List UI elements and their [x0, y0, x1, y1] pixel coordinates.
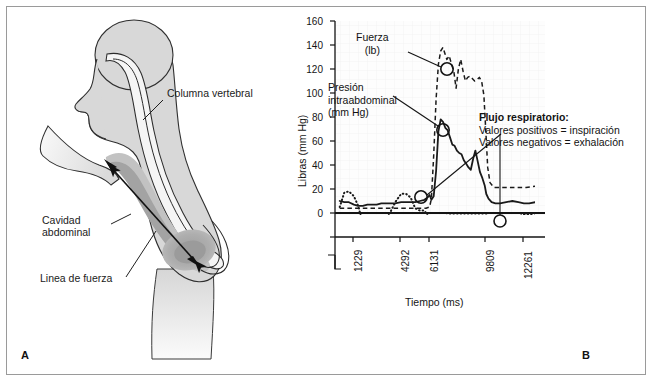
y-axis-title: Libras (mm Hg) — [296, 115, 308, 187]
panel-b-chart: 160 140 120 100 80 60 40 20 0 Libras (mm… — [295, 7, 647, 376]
y-tick-0: 0 — [299, 208, 323, 219]
callout-fuerza-line2: (lb) — [356, 44, 389, 57]
callout-presion-line3: (mm Hg) — [328, 106, 397, 119]
y-tick-marks — [330, 21, 335, 237]
callout-flujo-respiratorio: Flujo respiratorio: Valores positivos = … — [479, 111, 624, 149]
panel-a-anatomical-diagram: Columna vertebral Cavidad abdominal Line… — [7, 7, 295, 376]
x-tick-12261: 12261 — [523, 251, 534, 279]
leader-linea — [126, 231, 156, 277]
figure-root: Columna vertebral Cavidad abdominal Line… — [0, 0, 652, 387]
callout-flujo-line2: Valores negativos = exhalación — [479, 136, 624, 149]
x-tick-6131: 6131 — [429, 250, 440, 272]
x-tick-marks — [353, 237, 523, 242]
callout-presion-intraabdominal: Presión intraabdominal (mm Hg) — [328, 81, 397, 119]
x-tick-4292: 4292 — [400, 250, 411, 272]
callout-flujo-line1: Valores positivos = inspiración — [479, 124, 624, 137]
x-tick-1229: 1229 — [353, 250, 364, 272]
chart-canvas — [295, 7, 647, 376]
y-tick-140: 140 — [299, 40, 323, 51]
y-tick-100: 100 — [299, 88, 323, 99]
leg-shape — [152, 269, 214, 359]
callout-presion-line2: intraabdominal — [328, 94, 397, 107]
callout-flujo-title: Flujo respiratorio: — [479, 111, 624, 124]
callout-presion-line1: Presión — [328, 81, 397, 94]
label-cavidad-abdominal: Cavidad abdominal — [42, 214, 122, 238]
anatomy-illustration — [7, 7, 295, 376]
callout-fuerza: Fuerza (lb) — [356, 31, 389, 56]
marker-flujo-right — [494, 215, 506, 227]
panel-letter-a: A — [21, 349, 29, 361]
label-columna-vertebral: Columna vertebral — [167, 87, 253, 100]
callout-fuerza-line1: Fuerza — [356, 31, 389, 44]
panel-letter-b: B — [582, 349, 590, 361]
x-tick-9809: 9809 — [485, 250, 496, 272]
y-tick-160: 160 — [299, 16, 323, 27]
figure-frame: Columna vertebral Cavidad abdominal Line… — [6, 6, 646, 375]
label-linea-de-fuerza: Linea de fuerza — [40, 272, 112, 285]
y-tick-120: 120 — [299, 64, 323, 75]
x-axis-title: Tiempo (ms) — [405, 296, 464, 308]
